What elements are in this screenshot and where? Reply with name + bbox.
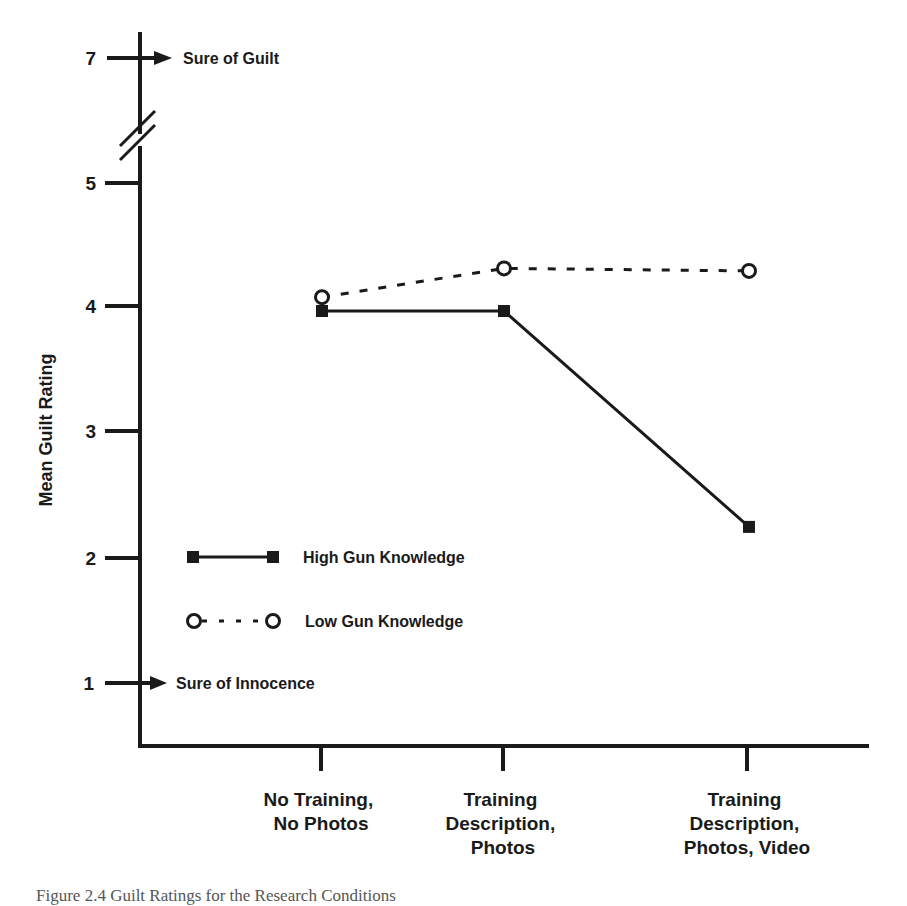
svg-text:High Gun Knowledge: High Gun Knowledge: [303, 549, 465, 566]
x-category-label: Training Description, Photos: [445, 789, 560, 858]
y-tick-label: 7: [85, 48, 96, 69]
x-ticks: [321, 746, 747, 771]
legend: High Gun Knowledge Low Gun Knowledge: [187, 549, 465, 630]
x-category-label: No Training, No Photos: [263, 789, 378, 834]
data-point-low-0: [316, 291, 329, 304]
y-tick-label: 2: [85, 548, 96, 569]
x-category-label: Training Description, Photos, Video: [684, 789, 810, 858]
svg-text:Low Gun Knowledge: Low Gun Knowledge: [305, 613, 463, 630]
series-high-gun-knowledge: [316, 305, 755, 533]
circle-marker-icon: [267, 615, 280, 628]
data-point-low-1: [498, 262, 511, 275]
annotation-sure-of-guilt: Sure of Guilt: [183, 50, 280, 67]
y-tick-label: 5: [85, 173, 96, 194]
data-point-high-2: [743, 521, 755, 533]
series-low-gun-knowledge: [316, 262, 756, 304]
arrow-right-icon: [150, 676, 167, 690]
y-tick-label: 4: [85, 296, 96, 317]
arrow-right-icon: [154, 51, 172, 65]
y-tick-label: 1: [83, 673, 94, 694]
axis-break-icon: [120, 111, 155, 160]
y-tick-label: 3: [85, 421, 96, 442]
y-ticks: [105, 58, 158, 683]
annotation-sure-of-innocence: Sure of Innocence: [176, 675, 315, 692]
square-marker-icon: [187, 551, 199, 563]
legend-item-high: High Gun Knowledge: [187, 549, 465, 566]
square-marker-icon: [267, 551, 279, 563]
figure-caption: Figure 2.4 Guilt Ratings for the Researc…: [36, 886, 396, 906]
circle-marker-icon: [188, 615, 201, 628]
legend-item-low: Low Gun Knowledge: [188, 613, 464, 630]
y-axis-label: Mean Guilt Rating: [36, 354, 56, 507]
data-point-low-2: [743, 264, 756, 277]
data-point-high-1: [498, 305, 510, 317]
data-point-high-0: [316, 305, 328, 317]
